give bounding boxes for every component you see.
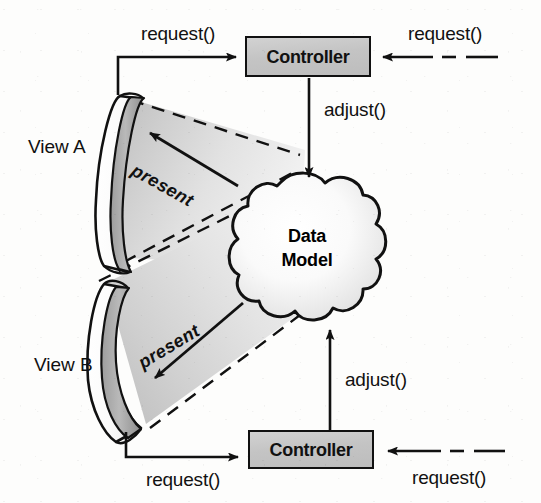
view-b-label: View B [34,355,93,374]
data-model-line-2: Model [247,250,367,271]
data-model-line-1: Data [247,226,367,247]
adjust-bottom-label: adjust() [345,370,407,389]
controller-bottom-box[interactable]: Controller [248,430,374,469]
adjust-top-label: adjust() [324,100,386,119]
edge-request-view-b [126,432,238,457]
request-view-b-label: request() [146,470,220,489]
request-external-top-label: request() [408,24,482,43]
data-model-label: Data Model [247,226,367,271]
controller-bottom-label: Controller [269,441,352,459]
mvc-diagram-canvas: Controller Controller Data Model View A … [0,0,541,503]
request-view-a-label: request() [141,24,215,43]
edge-request-view-a [118,57,236,95]
controller-top-box[interactable]: Controller [245,36,371,77]
request-external-bottom-label: request() [412,468,486,487]
controller-top-label: Controller [266,48,349,66]
view-a-label: View A [28,137,86,156]
